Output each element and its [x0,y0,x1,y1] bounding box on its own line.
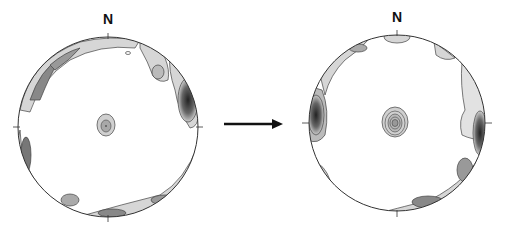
north-label: N [392,9,402,25]
left-stereonet: N [13,11,205,228]
right-stereonet: N [302,9,492,220]
north-label: N [103,11,113,27]
transform-arrow [224,119,283,129]
stereonet-diagram: N [0,0,506,231]
